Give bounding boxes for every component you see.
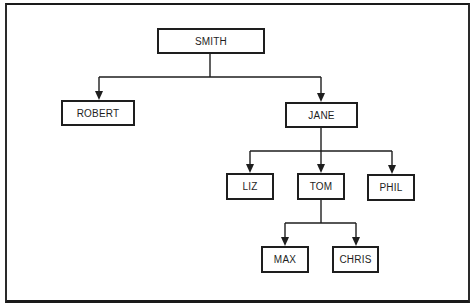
node-label: JANE (308, 110, 334, 121)
node-robert: ROBERT (61, 100, 135, 126)
node-label: SMITH (195, 36, 227, 47)
arrow-head-jane (317, 93, 325, 102)
node-tom: TOM (297, 173, 345, 200)
node-label: MAX (274, 254, 296, 265)
node-label: PHIL (379, 182, 402, 193)
arrow-head-phil (388, 165, 396, 174)
node-jane: JANE (285, 102, 358, 128)
node-label: LIZ (242, 181, 257, 192)
node-chris: CHRIS (332, 246, 379, 273)
arrow-head-chris (352, 237, 360, 246)
node-label: ROBERT (77, 108, 120, 119)
node-max: MAX (261, 246, 309, 273)
arrow-head-liz (246, 164, 254, 173)
node-phil: PHIL (367, 174, 415, 201)
node-smith: SMITH (157, 28, 265, 54)
arrow-head-max (281, 237, 289, 246)
arrow-head-robert (95, 91, 103, 100)
arrow-head-tom (317, 164, 325, 173)
node-label: CHRIS (339, 254, 371, 265)
node-liz: LIZ (226, 173, 274, 200)
node-label: TOM (310, 181, 333, 192)
